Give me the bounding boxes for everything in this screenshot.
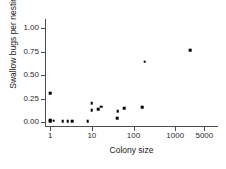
scatter-chart-figure: 0.000.250.500.751.00 11010010005000 Swal… [0,0,226,169]
data-point [91,109,94,112]
data-point [61,120,64,123]
x-tick-label: 1000 [166,132,184,140]
data-point [91,102,94,105]
data-point [116,117,119,120]
data-point [71,120,74,123]
data-point [100,105,103,108]
y-tick-label: 0.00 [23,118,39,126]
data-point [189,49,192,52]
x-tick-label: 5000 [195,132,213,140]
data-point [49,92,52,95]
y-tick-label: 0.75 [23,48,39,56]
y-axis-title: Swallow bugs per nesting [9,0,18,100]
data-point [66,120,69,123]
data-point [117,110,120,113]
x-tick-label: 1 [48,132,52,140]
data-point [87,120,90,123]
y-tick-label: 1.00 [23,24,39,32]
data-point [97,108,100,111]
data-point [52,119,55,122]
data-point [143,60,146,63]
plot-area [45,18,215,125]
x-axis-line [45,126,218,127]
data-point [49,120,52,123]
x-axis-title: Colony size [45,146,218,155]
data-point [141,106,144,109]
x-tick-label: 100 [127,132,140,140]
y-tick-label: 0.25 [23,95,39,103]
x-tick-label: 10 [87,132,96,140]
y-tick-label: 0.50 [23,71,39,79]
data-point [123,107,126,110]
